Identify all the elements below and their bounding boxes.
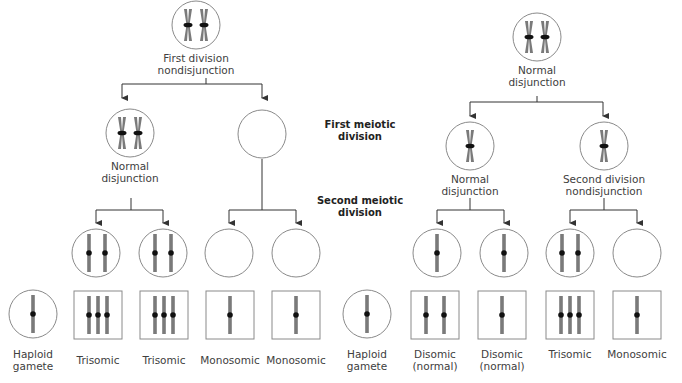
label-line: Haploid bbox=[3, 348, 63, 360]
label-line: Monosomic bbox=[195, 354, 265, 366]
label-line: Monosomic bbox=[602, 348, 672, 360]
label-line: gamete bbox=[337, 360, 397, 372]
label-line: Trisomic bbox=[134, 354, 194, 366]
label-line: disjunction bbox=[90, 172, 170, 184]
label-line: division bbox=[310, 207, 410, 219]
label-line: Second division bbox=[554, 173, 654, 185]
label-line: Normal bbox=[497, 64, 577, 76]
label-line: Haploid bbox=[337, 348, 397, 360]
label-line: disjunction bbox=[430, 185, 510, 197]
label-line: nondisjunction bbox=[554, 185, 654, 197]
result-label-trisomic-2: Trisomic bbox=[134, 354, 194, 366]
result-label-trisomic-3: Trisomic bbox=[540, 348, 600, 360]
label-right-root-normal-disjunction: Normal disjunction bbox=[497, 64, 577, 88]
label-line: division bbox=[310, 131, 410, 143]
label-line: First division bbox=[146, 52, 246, 64]
label-line: Monosomic bbox=[261, 354, 331, 366]
label-line: gamete bbox=[3, 360, 63, 372]
label-line: Second meiotic bbox=[310, 195, 410, 207]
label-first-division-nondisjunction: First division nondisjunction bbox=[146, 52, 246, 76]
label-first-meiotic-division: First meiotic division bbox=[310, 119, 410, 143]
result-label-disomic-1: Disomic (normal) bbox=[400, 348, 470, 372]
result-label-disomic-2: Disomic (normal) bbox=[467, 348, 537, 372]
label-line: (normal) bbox=[467, 360, 537, 372]
label-line: Trisomic bbox=[68, 354, 128, 366]
label-line: Normal bbox=[430, 173, 510, 185]
result-label-haploid-left: Haploid gamete bbox=[3, 348, 63, 372]
label-line: First meiotic bbox=[310, 119, 410, 131]
label-left-normal-disjunction: Normal disjunction bbox=[90, 160, 170, 184]
label-line: Disomic bbox=[400, 348, 470, 360]
label-second-meiotic-division: Second meiotic division bbox=[310, 195, 410, 219]
result-label-haploid-right: Haploid gamete bbox=[337, 348, 397, 372]
label-line: Disomic bbox=[467, 348, 537, 360]
label-line: nondisjunction bbox=[146, 64, 246, 76]
label-right-mid-normal-disjunction: Normal disjunction bbox=[430, 173, 510, 197]
label-line: Normal bbox=[90, 160, 170, 172]
label-second-division-nondisjunction: Second division nondisjunction bbox=[554, 173, 654, 197]
label-line: Trisomic bbox=[540, 348, 600, 360]
result-label-monosomic-3: Monosomic bbox=[602, 348, 672, 360]
label-line: (normal) bbox=[400, 360, 470, 372]
result-label-trisomic-1: Trisomic bbox=[68, 354, 128, 366]
result-label-monosomic-2: Monosomic bbox=[261, 354, 331, 366]
result-label-monosomic-1: Monosomic bbox=[195, 354, 265, 366]
label-line: disjunction bbox=[497, 76, 577, 88]
